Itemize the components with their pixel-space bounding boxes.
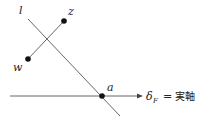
point-w — [25, 56, 31, 62]
label-w: w — [13, 61, 23, 74]
axis-label-equals: = — [163, 90, 172, 103]
segment-w-z — [28, 21, 64, 59]
label-l: l — [19, 4, 23, 17]
label-z: z — [67, 5, 74, 18]
line-l — [28, 19, 120, 116]
arrow-head-icon — [137, 94, 143, 99]
diagram-canvas: l z w a δ F = 実軸 — [0, 0, 208, 120]
axis-label-delta: δ — [146, 90, 153, 103]
label-a: a — [107, 81, 114, 94]
point-z — [61, 18, 67, 24]
axis-label-subscript: F — [152, 97, 159, 105]
point-a — [99, 93, 105, 99]
axis-label-name: 実軸 — [175, 90, 195, 102]
